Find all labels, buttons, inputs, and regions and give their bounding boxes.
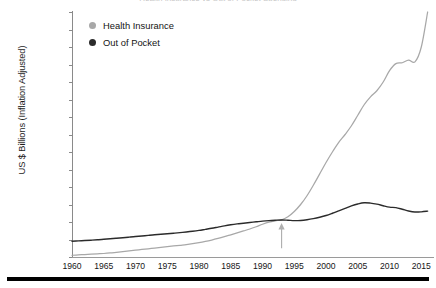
legend-item[interactable]: Health Insurance (89, 18, 174, 33)
crossover-arrow (278, 223, 284, 248)
legend-marker-dot-icon (89, 22, 96, 29)
legend-item[interactable]: Out of Pocket (89, 35, 174, 50)
chart-container: Health Insurance vs Out of Pocket Spendi… (0, 0, 436, 288)
legend-marker-dot-icon (89, 39, 96, 46)
plot-area (0, 0, 436, 288)
legend-label: Out of Pocket (103, 37, 160, 48)
legend-label: Health Insurance (103, 20, 174, 31)
bottom-divider (7, 277, 429, 281)
series-line-out-of-pocket (72, 203, 428, 242)
chart-legend: Health InsuranceOut of Pocket (89, 18, 174, 52)
